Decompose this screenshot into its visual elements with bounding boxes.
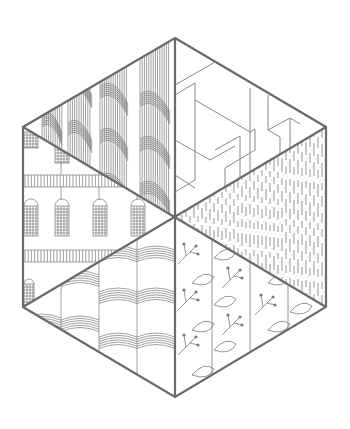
hexagon-outline <box>23 38 326 397</box>
segment-braided-rope <box>42 40 170 230</box>
hexagon-illustration <box>0 0 350 429</box>
segment-wave-arcs <box>23 215 175 400</box>
segment-berry-branches <box>178 215 312 400</box>
segment-dashed-rain <box>178 120 328 331</box>
